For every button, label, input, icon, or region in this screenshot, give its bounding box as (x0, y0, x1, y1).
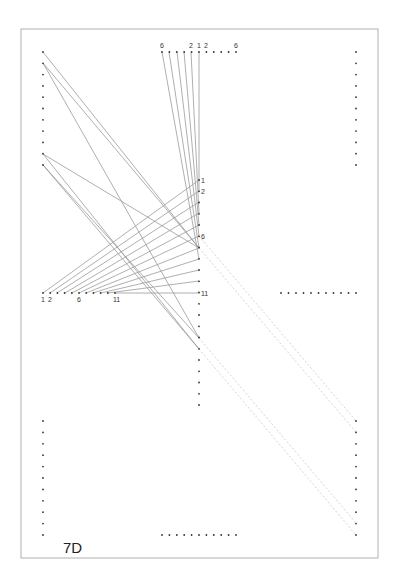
point-dot (100, 292, 102, 294)
index-label: 1 (41, 296, 45, 303)
point-dot (198, 314, 200, 316)
point-dot (42, 511, 44, 513)
point-dot (42, 454, 44, 456)
dashed-line (199, 236, 356, 421)
diagram-title: 7D (63, 539, 82, 556)
point-dot (355, 108, 357, 110)
point-dot (42, 108, 44, 110)
point-dot (355, 466, 357, 468)
index-label: 2 (204, 42, 208, 49)
point-dot (198, 292, 200, 294)
point-dot (325, 292, 327, 294)
solid-line (191, 52, 199, 213)
point-dot (295, 292, 297, 294)
solid-line (43, 63, 199, 248)
point-dot (333, 292, 335, 294)
point-dot (42, 153, 44, 155)
point-dot (355, 142, 357, 144)
point-dot (176, 51, 178, 53)
point-dot (169, 51, 171, 53)
point-dot (355, 74, 357, 76)
point-dot (49, 292, 51, 294)
index-label: 2 (48, 296, 52, 303)
point-dot (198, 202, 200, 204)
point-dot (198, 224, 200, 226)
point-dot (355, 119, 357, 121)
index-label: 11 (113, 296, 120, 303)
diagram-frame (21, 29, 378, 558)
point-dot (355, 477, 357, 479)
point-dot (355, 420, 357, 422)
point-dot (198, 280, 200, 282)
point-dot (355, 454, 357, 456)
point-dot (198, 235, 200, 237)
point-dot (198, 269, 200, 271)
point-dot (340, 292, 342, 294)
point-dot (288, 292, 290, 294)
point-dot (198, 348, 200, 350)
index-label: 2 (189, 42, 193, 49)
point-dot (198, 382, 200, 384)
point-dot (355, 511, 357, 513)
index-label: 11 (201, 290, 208, 297)
point-dot (355, 51, 357, 53)
dashed-connection-lines (199, 236, 356, 535)
point-dot (85, 292, 87, 294)
point-dot (161, 534, 163, 536)
point-dot (42, 534, 44, 536)
point-dot (198, 247, 200, 249)
dashed-line (199, 248, 356, 432)
point-dot (114, 292, 116, 294)
point-dot (198, 179, 200, 181)
point-dot (348, 292, 350, 294)
point-dot (355, 96, 357, 98)
point-dot (280, 292, 282, 294)
point-dot (42, 62, 44, 64)
point-dot (42, 466, 44, 468)
point-dot (198, 534, 200, 536)
point-dot (355, 489, 357, 491)
point-dot (355, 164, 357, 166)
point-dot (42, 443, 44, 445)
point-dot (198, 359, 200, 361)
point-dot (355, 500, 357, 502)
point-dot (228, 51, 230, 53)
solid-line (43, 165, 199, 338)
bottom-row (161, 534, 237, 536)
solid-line (43, 63, 199, 338)
point-dot (198, 258, 200, 260)
point-dot (198, 404, 200, 406)
dashed-line (199, 349, 356, 535)
point-dot (198, 393, 200, 395)
top-row (161, 51, 237, 53)
point-dot (198, 325, 200, 327)
point-dot (228, 534, 230, 536)
index-label: 6 (201, 233, 205, 240)
point-dot (206, 534, 208, 536)
point-dot (355, 523, 357, 525)
point-dot (220, 534, 222, 536)
point-dot (206, 51, 208, 53)
point-dot (220, 51, 222, 53)
point-dot (191, 534, 193, 536)
point-dot (161, 51, 163, 53)
point-dot (42, 432, 44, 434)
point-dot (303, 292, 305, 294)
point-dot (64, 292, 66, 294)
point-dot (107, 292, 109, 294)
index-label: 1 (201, 177, 205, 184)
solid-connection-lines (43, 52, 199, 349)
dot-grids (42, 51, 357, 536)
dashed-line (199, 338, 356, 523)
point-dot (213, 534, 215, 536)
point-dot (42, 489, 44, 491)
point-dot (198, 303, 200, 305)
point-dot (42, 292, 44, 294)
point-dot (78, 292, 80, 294)
point-dot (355, 443, 357, 445)
point-dot (191, 51, 193, 53)
point-dot (198, 370, 200, 372)
point-dot (42, 130, 44, 132)
point-dot (42, 477, 44, 479)
point-dot (42, 74, 44, 76)
